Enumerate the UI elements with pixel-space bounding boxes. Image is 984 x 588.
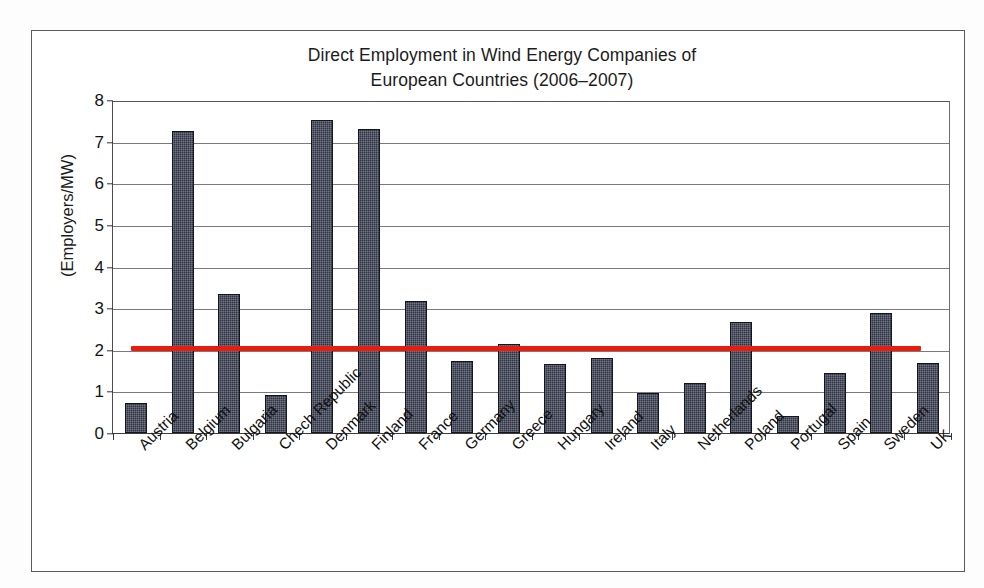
y-axis-tick-label: 7: [95, 133, 104, 153]
bar-slot: [672, 101, 719, 433]
bar: [358, 129, 380, 433]
bar-series: [113, 101, 949, 433]
y-axis-tick-label: 5: [95, 216, 104, 236]
x-axis-category-labels: AustriaBelgiumBulgariaChech RepublicDenm…: [112, 441, 950, 561]
bar-slot: [253, 101, 300, 433]
bar-slot: [765, 101, 812, 433]
y-axis-tick-label: 2: [95, 341, 104, 361]
bar-slot: [811, 101, 858, 433]
bar: [125, 403, 147, 433]
bar-slot: [206, 101, 253, 433]
bar-slot: [579, 101, 626, 433]
x-axis-tick-mark: [113, 433, 114, 440]
bar-slot: [485, 101, 532, 433]
y-axis-tick-label: 6: [95, 174, 104, 194]
bar-slot: [160, 101, 207, 433]
bar-slot: [718, 101, 765, 433]
bar: [870, 313, 892, 433]
y-axis-tick-label: 3: [95, 299, 104, 319]
y-axis-tick-label: 8: [95, 91, 104, 111]
chart-title: Direct Employment in Wind Energy Compani…: [122, 43, 882, 93]
bar-slot: [904, 101, 951, 433]
plot-area: 012345678: [112, 101, 950, 434]
y-axis-tick-label: 0: [95, 424, 104, 444]
chart-title-line-1: Direct Employment in Wind Energy Compani…: [308, 45, 697, 65]
bar-slot: [625, 101, 672, 433]
bar-slot: [532, 101, 579, 433]
bar-slot: [439, 101, 486, 433]
bar-slot: [113, 101, 160, 433]
y-axis-tick-label: 1: [95, 382, 104, 402]
bar: [172, 131, 194, 433]
bar-slot: [858, 101, 905, 433]
scanned-page: Direct Employment in Wind Energy Compani…: [0, 0, 984, 588]
bar-slot: [392, 101, 439, 433]
average-reference-line: [131, 346, 921, 351]
bar: [684, 383, 706, 433]
chart-frame: Direct Employment in Wind Energy Compani…: [31, 30, 965, 572]
y-axis-tick-label: 4: [95, 258, 104, 278]
y-axis-title: (Employers/MW): [58, 86, 77, 346]
chart-title-line-2: European Countries (2006–2007): [122, 68, 882, 93]
